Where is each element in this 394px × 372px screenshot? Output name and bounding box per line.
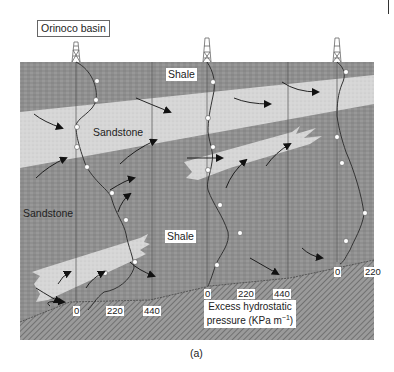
basin-label: Orinoco basin <box>37 20 110 37</box>
shale-lower-label: Shale <box>165 230 196 243</box>
well1-tick-0: 0 <box>73 306 80 316</box>
pressure-label-text: pressure (KPa m <box>207 315 282 326</box>
well2-tick-220: 220 <box>237 289 255 299</box>
orinoco-basin-diagram: Orinoco basin Shale Sandstone Sandstone … <box>0 0 394 372</box>
well1-tick-440: 440 <box>143 306 161 316</box>
pressure-label-close: ) <box>290 315 293 326</box>
sandstone-upper-label: Sandstone <box>93 127 143 138</box>
derrick-icon <box>72 38 341 62</box>
well2-tick-0: 0 <box>204 289 211 299</box>
well1-tick-220: 220 <box>106 306 124 316</box>
well2-tick-440: 440 <box>273 289 291 299</box>
page-edge-mark <box>388 0 389 14</box>
pressure-label-line1: Excess hydrostatic <box>204 301 296 314</box>
pressure-label-line2: pressure (KPa m−1) <box>204 314 296 328</box>
well3-tick-0: 0 <box>334 267 341 277</box>
shale-upper-label: Shale <box>166 68 197 81</box>
pressure-unit-sup: −1 <box>282 314 290 321</box>
sandstone-lower-label: Sandstone <box>23 208 73 219</box>
well3-tick-220: 220 <box>364 267 382 277</box>
pressure-axis-label: Excess hydrostatic pressure (KPa m−1) <box>204 300 296 328</box>
figure-caption: (a) <box>190 347 203 359</box>
cross-section-svg <box>0 0 394 372</box>
